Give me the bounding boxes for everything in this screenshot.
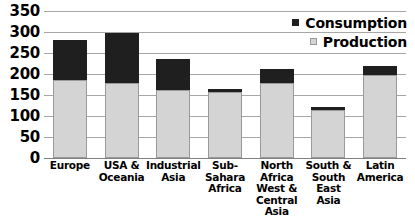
- bar-segment-production: [311, 110, 345, 158]
- y-tick-label: 200: [10, 65, 40, 83]
- bar-group: [311, 107, 345, 158]
- bar-segment-production: [363, 75, 397, 158]
- y-tick-label: 100: [10, 107, 40, 125]
- x-tick-label-line: Asia: [299, 195, 359, 207]
- x-tick-label-line: Latin: [350, 160, 410, 172]
- bar-group: [363, 66, 397, 158]
- bar-group: [208, 89, 242, 158]
- bar-segment-production: [208, 92, 242, 158]
- bar-segment-consumption: [311, 107, 345, 110]
- x-tick-label-line: America: [350, 172, 410, 184]
- bar-segment-production: [53, 80, 87, 158]
- x-axis: EuropeUSA &OceaniaIndustrialAsiaSub-Saha…: [44, 160, 406, 217]
- y-tick-label: 250: [10, 44, 40, 62]
- x-tick-label: LatinAmerica: [350, 160, 410, 183]
- legend-item[interactable]: Production: [247, 32, 407, 51]
- y-tick-label: 350: [10, 2, 40, 20]
- bar-group: [53, 40, 87, 158]
- y-tick-label: 300: [10, 23, 40, 41]
- legend-item[interactable]: Consumption: [247, 13, 407, 32]
- bar-segment-production: [105, 83, 139, 158]
- chart-legend: ConsumptionProduction: [247, 13, 407, 51]
- legend-label: Consumption: [305, 15, 407, 31]
- bar-segment-consumption: [208, 89, 242, 92]
- bar-chart: 050100150200250300350 EuropeUSA &Oceania…: [0, 0, 415, 217]
- bar-segment-consumption: [53, 40, 87, 80]
- legend-swatch-icon: [310, 38, 317, 45]
- bar-group: [156, 59, 190, 158]
- bar-segment-consumption: [105, 33, 139, 83]
- bar-group: [260, 69, 294, 158]
- bar-segment-consumption: [363, 66, 397, 74]
- y-tick-label: 0: [30, 149, 40, 167]
- bar-group: [105, 33, 139, 158]
- bar-segment-consumption: [156, 59, 190, 90]
- y-axis: 050100150200250300350: [0, 11, 40, 158]
- bar-segment-production: [260, 83, 294, 158]
- bar-segment-consumption: [260, 69, 294, 83]
- bar-segment-production: [156, 90, 190, 158]
- legend-label: Production: [323, 34, 407, 50]
- y-tick-label: 50: [20, 128, 40, 146]
- legend-swatch-icon: [292, 19, 299, 26]
- y-tick-label: 150: [10, 86, 40, 104]
